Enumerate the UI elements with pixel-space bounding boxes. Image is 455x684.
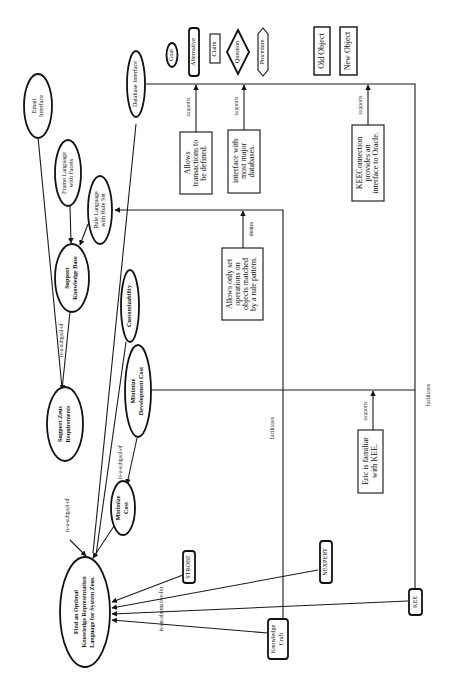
label-supports-3: supports: [357, 96, 363, 115]
svg-text:with KEE.: with KEE.: [370, 444, 379, 478]
label-supports-4: supports: [362, 402, 368, 421]
svg-text:Language for System Zeus.: Language for System Zeus.: [88, 576, 95, 648]
svg-text:Interface: Interface: [37, 95, 44, 117]
label-supports-2: supports: [233, 97, 239, 116]
label-facilitates-2: facilitates: [425, 384, 431, 406]
edge-zeus-to-root: [70, 540, 86, 556]
svg-text:STROBE: STROBE: [184, 555, 191, 579]
goal-rule-language[interactable]: Rule Language with Rule Set: [88, 176, 112, 244]
claim-keeconnection[interactable]: KEEConnection provides an interface to O…: [352, 125, 384, 201]
design-rationale-diagram: is-a-subgoal-of is-a-subgoal-of is-a-sub…: [0, 0, 455, 684]
label-subgoal-kb: is-a-subgoal-of: [58, 323, 64, 357]
svg-text:Minimize: Minimize: [129, 378, 136, 403]
svg-text:Question: Question: [233, 41, 240, 63]
edge-kee-to-root: [112, 601, 408, 614]
svg-text:with Rule Set: with Rule Set: [99, 193, 106, 227]
legend-goal: Goal: [167, 43, 178, 67]
edge-craft-to-root: [112, 620, 268, 633]
goal-support-zeus-requirements[interactable]: Support Zeus Requirements: [47, 387, 83, 461]
svg-text:Rule Language: Rule Language: [92, 191, 99, 229]
goal-minimize-cost[interactable]: Minimize Cost: [111, 481, 135, 535]
svg-text:databases.: databases.: [247, 145, 256, 178]
alternative-nexpert[interactable]: NEXPERT: [320, 541, 332, 583]
goal-root-optimal-language[interactable]: Find an Optimal Knowledge Representation…: [60, 557, 110, 667]
svg-text:Procedure: Procedure: [258, 39, 265, 64]
claim-eric-familiar-kee[interactable]: Eric is familiar with KEE.: [358, 430, 383, 493]
svg-text:Old Object: Old Object: [317, 33, 326, 69]
label-facilitates-1: facilitates: [269, 417, 275, 439]
goal-database-interface[interactable]: Database Interface: [127, 51, 145, 117]
svg-text:Knowledge Base: Knowledge Base: [71, 256, 78, 300]
goal-support-knowledge-base[interactable]: Support Knowledge Base: [55, 244, 89, 312]
label-alternative: is-an-alternative-for: [158, 587, 164, 632]
label-subgoal-devcost: is-a-subgoal-of: [117, 445, 123, 479]
legend: Goal Alternative Claim Question Procedur…: [167, 27, 358, 76]
goal-frame-language[interactable]: Frame Language with Facets: [55, 140, 81, 206]
edge-rule-to-kb: [80, 224, 88, 245]
svg-text:Find an Optimal: Find an Optimal: [72, 590, 79, 634]
alternative-knowledge-craft[interactable]: Knowledge Craft: [268, 619, 288, 659]
svg-text:with Facets: with Facets: [67, 158, 74, 187]
claim-set-operations[interactable]: Allows only set operations on objects ma…: [222, 248, 263, 320]
svg-text:interface to Oracle.: interface to Oracle.: [371, 132, 380, 194]
svg-text:Knowledge Representation: Knowledge Representation: [80, 576, 87, 648]
svg-text:Alternative: Alternative: [189, 38, 196, 66]
svg-text:Frame Language: Frame Language: [60, 152, 67, 194]
goal-minimize-development-cost[interactable]: Minimize Development Cost: [125, 345, 151, 437]
claim-interface-databases[interactable]: interface with most major databases.: [228, 130, 260, 193]
edge-devcost-to-mincost: [127, 438, 137, 484]
goal-email-interface[interactable]: Email Interface: [24, 74, 52, 138]
svg-text:Knowledge: Knowledge: [269, 624, 276, 653]
legend-question: Question: [227, 30, 249, 74]
edge-mincost-to-root: [93, 526, 114, 558]
edge-nexpert-to-root: [112, 570, 318, 608]
svg-text:be defined.: be defined.: [199, 145, 208, 181]
svg-text:Development Cost: Development Cost: [137, 366, 144, 415]
svg-text:by a rule pattern.: by a rule pattern.: [249, 257, 258, 311]
svg-text:Claim: Claim: [210, 41, 217, 56]
label-subgoal-zeus: is-a-subgoal-of: [64, 498, 70, 532]
legend-new-object: New Object: [340, 27, 357, 75]
svg-text:Eric is familiar: Eric is familiar: [361, 437, 370, 485]
svg-text:KEE: KEE: [411, 596, 418, 608]
svg-text:Support Zeus: Support Zeus: [56, 405, 63, 442]
edge-strobe-to-root: [112, 575, 183, 602]
goal-customizability[interactable]: Customizability: [121, 270, 139, 342]
legend-claim: Claim: [210, 34, 220, 63]
edge-frame-to-kb: [70, 206, 71, 243]
svg-text:NEXPERT: NEXPERT: [321, 548, 328, 576]
label-denies: denies: [248, 222, 254, 236]
alternative-strobe[interactable]: STROBE: [183, 551, 195, 583]
legend-alternative: Alternative: [189, 28, 199, 76]
legend-procedure: Procedure: [258, 28, 268, 76]
claim-allows-transactions[interactable]: Allows transactions to be defined.: [180, 132, 212, 194]
svg-text:Craft: Craft: [277, 632, 284, 645]
svg-text:Database Interface: Database Interface: [131, 61, 138, 107]
svg-text:New Object: New Object: [343, 31, 352, 70]
svg-text:Email: Email: [30, 98, 37, 113]
alternative-kee[interactable]: KEE: [409, 589, 422, 615]
svg-text:Customizability: Customizability: [125, 284, 132, 327]
label-supports-1: supports: [185, 98, 191, 117]
svg-text:Requirements: Requirements: [64, 405, 71, 443]
svg-text:Goal: Goal: [167, 49, 174, 61]
svg-text:Support: Support: [63, 266, 70, 289]
legend-old-object: Old Object: [314, 27, 330, 75]
svg-text:Minimize: Minimize: [114, 495, 121, 520]
svg-text:Cost: Cost: [122, 501, 129, 514]
